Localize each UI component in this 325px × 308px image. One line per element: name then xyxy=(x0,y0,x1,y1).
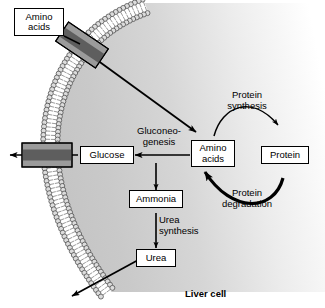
label-urea-synthesis: Urea synthesis xyxy=(159,215,217,236)
box-amino-acids-outside: Amino acids xyxy=(14,8,64,36)
label-protein-synthesis: Protein synthesis xyxy=(212,90,282,111)
label-gluconeogenesis: Gluconeo- genesis xyxy=(128,126,190,147)
liver-cell-metabolism-diagram: Amino acids Glucose Amino acids Protein … xyxy=(0,0,325,308)
box-urea: Urea xyxy=(136,249,176,267)
figure-caption: Liver cell xyxy=(185,288,226,299)
box-amino-acids-inside: Amino acids xyxy=(191,140,235,167)
label-protein-degradation: Protein degradation xyxy=(203,188,291,209)
box-protein: Protein xyxy=(261,146,309,164)
glucose-transporter xyxy=(22,143,72,167)
box-glucose: Glucose xyxy=(80,146,134,164)
box-ammonia: Ammonia xyxy=(129,190,183,208)
